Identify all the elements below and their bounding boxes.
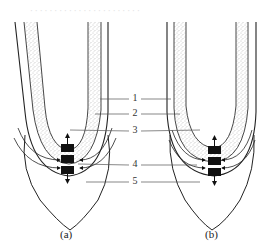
caption-b: (b): [205, 228, 218, 240]
block-b-1: [208, 146, 221, 154]
stippled-wall-b: [174, 22, 248, 162]
label-2: 2: [130, 107, 140, 118]
label-1: 1: [130, 92, 140, 103]
block-b-2: [208, 157, 221, 165]
block-a-3: [61, 166, 74, 174]
label-3: 3: [130, 124, 140, 135]
block-a-2: [61, 155, 74, 163]
bleed-through-text: ·······················: [30, 6, 142, 16]
panel-b: [167, 22, 256, 230]
caption-a: (a): [60, 228, 72, 240]
panel-a: [14, 22, 116, 230]
label-4: 4: [130, 158, 140, 169]
stippled-wall-a: [24, 22, 101, 164]
diagram-figure: ······················· 1 2 3 4 5 (a) (b…: [0, 0, 269, 250]
label-5: 5: [130, 175, 140, 186]
block-a-1: [61, 144, 74, 152]
block-b-3: [208, 168, 221, 176]
